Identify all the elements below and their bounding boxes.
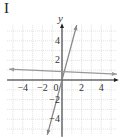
- x-tick-label: −4: [17, 82, 28, 93]
- y-tick-label: −2: [49, 94, 60, 105]
- x-tick-label: −2: [37, 82, 48, 93]
- line-arrow-icon: [73, 25, 77, 30]
- plot-line: [9, 69, 117, 74]
- line-arrow-icon: [47, 130, 51, 135]
- y-tick-label: 2: [55, 54, 60, 65]
- y-tick-label: 4: [55, 35, 60, 46]
- graph: y −4−202442−2−4: [0, 0, 124, 138]
- y-axis-label: y: [57, 12, 63, 24]
- x-tick-label: 2: [79, 82, 84, 93]
- line-arrow-icon: [112, 72, 117, 76]
- x-axis-arrow-icon: [114, 78, 119, 82]
- line-arrow-icon: [9, 67, 14, 71]
- x-tick-label: 4: [99, 82, 104, 93]
- y-tick-label: −4: [49, 113, 60, 124]
- x-tick-label: 0: [54, 82, 59, 93]
